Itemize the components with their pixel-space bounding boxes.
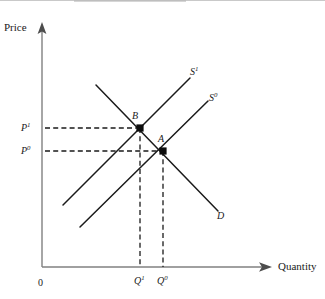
axes-group: [38, 22, 272, 272]
diagram-canvas: [0, 0, 325, 299]
supply-demand-figure: Price Quantity 0 P1 P0 Q1 Q0 S1 S0 D B A: [0, 0, 325, 299]
demand-curve-d: [96, 85, 218, 211]
quantity-tick-q1-exponent: 1: [141, 274, 144, 281]
point-marker-b: [136, 124, 143, 131]
price-tick-p0: P0: [21, 145, 31, 156]
point-marker-a: [159, 147, 166, 154]
supply-curve-s1: [63, 78, 190, 205]
quantity-tick-q1: Q1: [134, 275, 145, 286]
price-tick-p1: P1: [21, 122, 31, 133]
price-tick-p0-exponent: 0: [27, 144, 30, 151]
point-label-a: A: [158, 134, 164, 144]
curve-label-s0: S0: [209, 92, 217, 103]
quantity-tick-q0-exponent: 0: [164, 274, 167, 281]
curve-label-d: D: [217, 211, 224, 221]
point-label-b: B: [132, 111, 138, 121]
origin-label: 0: [38, 278, 43, 288]
supply-curve-s0: [80, 101, 208, 227]
y-axis-title: Price: [4, 22, 27, 33]
x-axis-title: Quantity: [278, 261, 317, 272]
curve-label-s0-exponent: 0: [214, 91, 217, 98]
price-tick-p1-exponent: 1: [27, 121, 30, 128]
curve-label-s1-exponent: 1: [195, 65, 198, 72]
quantity-tick-q0: Q0: [157, 275, 168, 286]
curve-label-s1: S1: [190, 66, 198, 77]
